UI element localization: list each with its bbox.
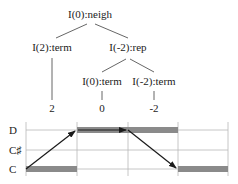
y-label-csharp: C♯ — [9, 144, 22, 156]
tree-edge — [130, 59, 154, 72]
tree-edge — [95, 24, 128, 38]
tree-edge — [56, 24, 87, 38]
pitch-bar-c — [178, 166, 228, 172]
tree-node-term-neg2: I(-2):term — [132, 75, 176, 88]
pitch-chart: D C♯ C — [9, 122, 228, 176]
y-label-c: C — [9, 163, 16, 175]
tree-diagram: I(0):neigh I(2):term I(-2):rep I(0):term… — [32, 8, 176, 114]
pitch-bar-d — [128, 127, 178, 133]
tree-node-term-2: I(2):term — [32, 41, 72, 54]
tree-edge — [102, 59, 126, 72]
leaf-value: 2 — [49, 102, 55, 114]
y-label-d: D — [9, 124, 17, 136]
pitch-bar-c — [26, 166, 77, 172]
tree-node-rep: I(-2):rep — [109, 41, 147, 54]
leaf-value: 0 — [99, 102, 105, 114]
diagram-canvas: I(0):neigh I(2):term I(-2):rep I(0):term… — [0, 0, 238, 184]
tree-root-node: I(0):neigh — [68, 8, 112, 21]
transition-arrow — [128, 130, 176, 168]
leaf-value: -2 — [149, 102, 158, 114]
tree-node-term-0: I(0):term — [82, 75, 122, 88]
